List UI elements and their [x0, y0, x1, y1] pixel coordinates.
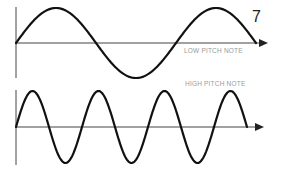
low-pitch-arrow-icon	[259, 39, 268, 47]
low-pitch-label: LOW PITCH NOTE	[184, 47, 243, 54]
high-pitch-arrow-icon	[255, 123, 264, 131]
high-pitch-label: HIGH PITCH NOTE	[185, 80, 245, 87]
low-pitch-wave-diagram	[16, 7, 268, 78]
high-pitch-wave-diagram	[16, 90, 264, 165]
page-number: 7	[252, 8, 261, 26]
pitch-waves-diagram	[0, 0, 282, 177]
